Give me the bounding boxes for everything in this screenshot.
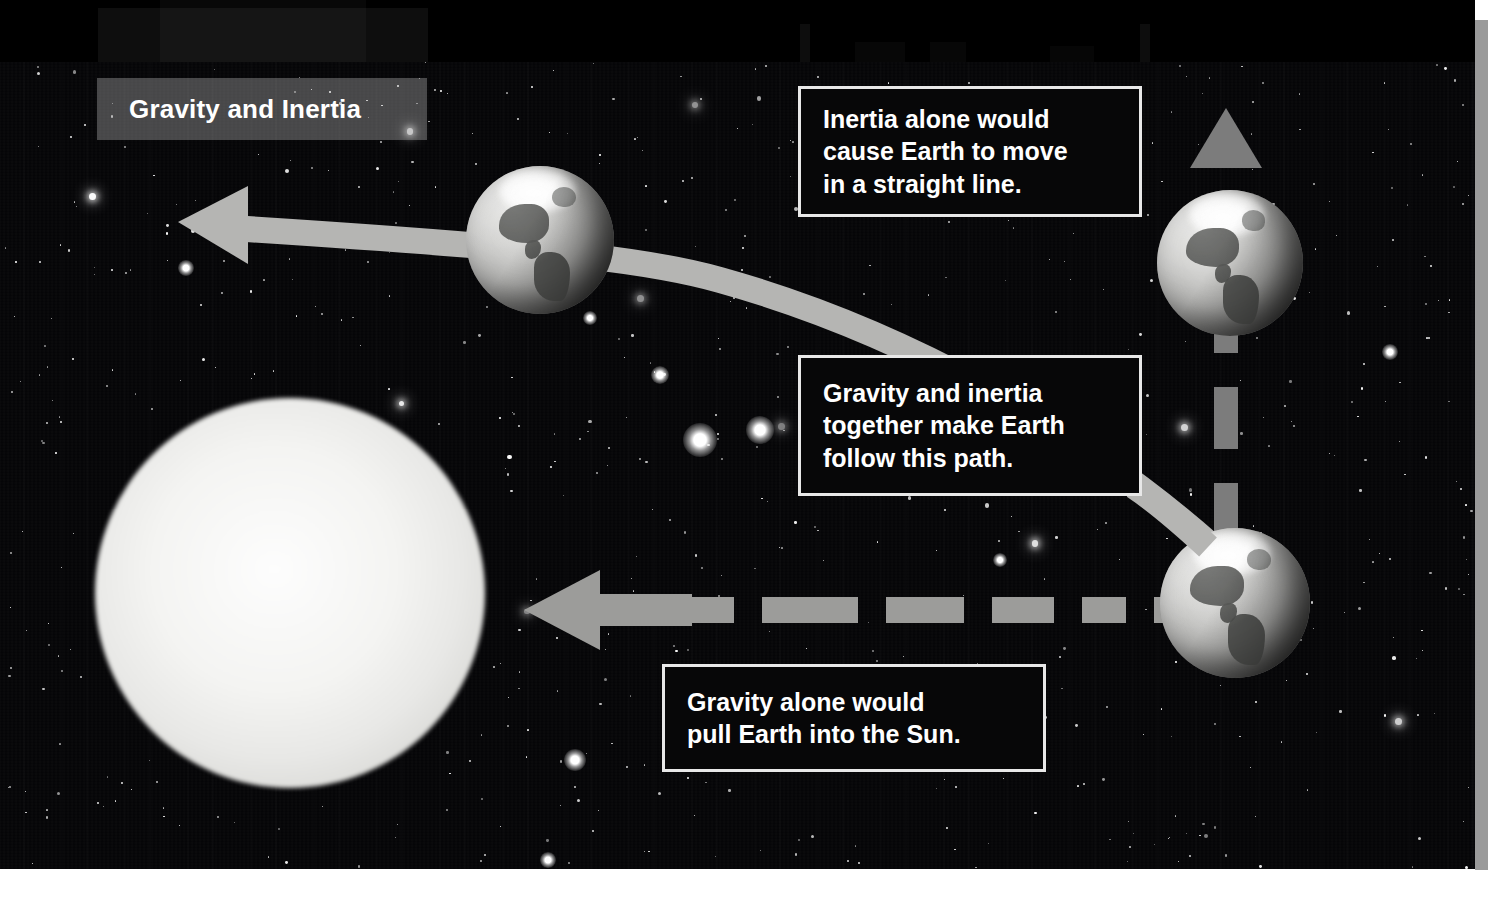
star [1105, 522, 1107, 524]
star [1351, 401, 1353, 403]
star [8, 675, 10, 677]
star [1384, 82, 1386, 84]
star [1347, 311, 1350, 314]
star [60, 421, 63, 424]
star [787, 297, 788, 298]
star [783, 430, 785, 432]
star [506, 92, 508, 94]
star [596, 472, 598, 474]
star [237, 192, 239, 194]
star [893, 605, 894, 606]
star [944, 779, 945, 780]
star [1063, 647, 1066, 650]
star [1013, 227, 1015, 229]
star [26, 630, 28, 632]
star [500, 826, 501, 827]
star [147, 213, 149, 215]
star [636, 556, 637, 557]
star [315, 306, 316, 307]
star [1425, 303, 1428, 306]
star [612, 98, 615, 101]
star [985, 503, 990, 508]
star [695, 246, 696, 247]
star [1225, 518, 1226, 519]
star [358, 865, 361, 868]
star [1460, 488, 1462, 490]
star [380, 141, 382, 143]
star [1372, 561, 1374, 563]
star [166, 224, 169, 227]
star [1255, 701, 1256, 702]
star [1434, 713, 1435, 714]
star [675, 650, 677, 652]
star [634, 138, 636, 140]
star [1384, 714, 1387, 717]
star [1234, 408, 1236, 410]
star [752, 124, 753, 125]
star [794, 521, 797, 524]
star [39, 374, 40, 375]
star [1293, 425, 1295, 427]
star [11, 391, 13, 393]
star [1228, 410, 1230, 412]
star [1186, 833, 1187, 834]
star [221, 292, 223, 294]
star [756, 446, 758, 448]
star [398, 181, 399, 182]
star [1189, 855, 1191, 857]
star [760, 850, 761, 851]
star [669, 519, 671, 521]
star [536, 610, 539, 613]
star [691, 177, 693, 179]
star [1075, 724, 1078, 727]
star [151, 408, 153, 410]
star [59, 743, 61, 745]
star [1103, 289, 1105, 291]
star [39, 261, 41, 263]
star [388, 388, 390, 390]
star [180, 380, 181, 381]
star [1412, 866, 1414, 868]
star [469, 760, 471, 762]
star [1106, 706, 1108, 708]
star [1372, 152, 1374, 154]
star [1225, 158, 1227, 160]
star [1171, 111, 1173, 113]
star [631, 578, 632, 579]
star [440, 90, 442, 92]
star [58, 655, 60, 657]
earth-shading [1160, 528, 1310, 678]
star [1316, 732, 1317, 733]
star [1436, 64, 1438, 66]
star [1313, 183, 1315, 185]
star [1239, 736, 1240, 737]
star [1119, 559, 1120, 560]
star [214, 69, 215, 70]
star [176, 204, 178, 206]
earth-shading [1157, 190, 1303, 336]
star [1424, 256, 1426, 258]
star [1384, 306, 1385, 307]
star [8, 787, 9, 788]
star [463, 341, 466, 344]
star [1175, 661, 1177, 663]
star [680, 76, 681, 77]
star [46, 422, 48, 424]
star [1199, 835, 1201, 837]
star [863, 293, 865, 295]
star [963, 595, 965, 597]
star [557, 690, 559, 692]
star [777, 396, 779, 398]
star [508, 697, 509, 698]
star [72, 358, 74, 360]
star [1286, 680, 1288, 682]
star [741, 269, 743, 271]
callout-inertia-straight-line: Inertia alone would cause Earth to move … [798, 86, 1142, 217]
star [744, 235, 746, 237]
star [734, 199, 736, 201]
star [1198, 158, 1200, 160]
star [1217, 131, 1218, 132]
star [637, 137, 638, 138]
scan-smudge-f [930, 42, 966, 62]
star [475, 163, 477, 165]
